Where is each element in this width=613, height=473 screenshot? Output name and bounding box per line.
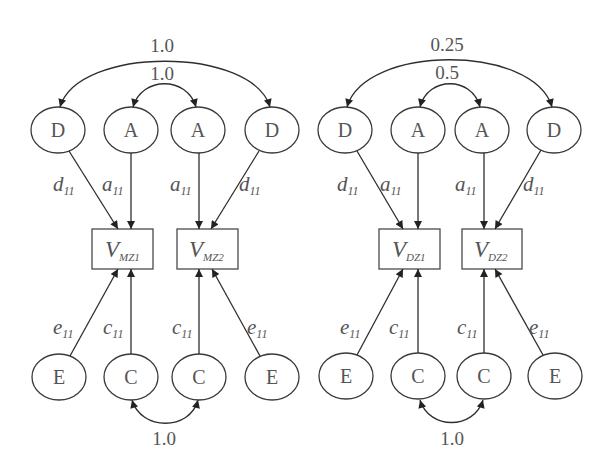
mz-observed-variable-twin2: VMZ2	[177, 229, 238, 269]
dz-twin-panel: 0.25 0.5 1.0 D A A D E C	[318, 34, 582, 449]
mz-latent-node-e1: E	[32, 354, 86, 400]
dz-latent-node-a2: A	[455, 107, 509, 153]
svg-text:A: A	[475, 119, 490, 141]
dz-coef-d1: d11	[337, 172, 359, 198]
dz-latent-node-d1: D	[318, 107, 372, 153]
mz-coef-e2: e11	[247, 315, 267, 341]
svg-text:C: C	[192, 366, 205, 388]
dz-additive-correlation-label: 0.5	[435, 62, 459, 83]
mz-coef-d1: d11	[53, 172, 75, 198]
mz-additive-correlation-label: 1.0	[150, 63, 174, 84]
mz-coef-a1: a11	[102, 172, 124, 198]
mz-coef-c2: c11	[172, 315, 192, 341]
dz-coef-a2: a11	[455, 172, 477, 198]
dz-coef-c2: c11	[457, 315, 477, 341]
svg-text:D: D	[547, 119, 561, 141]
svg-text:C: C	[124, 366, 137, 388]
dz-coef-d2: d11	[523, 172, 545, 198]
svg-text:C: C	[411, 365, 424, 387]
svg-text:A: A	[124, 119, 139, 141]
mz-latent-node-d1: D	[31, 107, 85, 153]
dz-latent-node-c2: C	[457, 353, 511, 399]
dz-latent-node-e1: E	[319, 353, 373, 399]
dz-coef-e1: e11	[340, 315, 360, 341]
svg-text:E: E	[266, 366, 278, 388]
mz-coef-d2: d11	[239, 172, 261, 198]
dz-latent-node-c1: C	[391, 353, 445, 399]
mz-coef-e1: e11	[53, 315, 73, 341]
svg-text:C: C	[477, 365, 490, 387]
mz-coef-a2: a11	[170, 172, 192, 198]
svg-text:D: D	[338, 119, 352, 141]
mz-latent-node-c1: C	[104, 354, 158, 400]
svg-text:E: E	[340, 365, 352, 387]
dz-additive-correlation-arc	[420, 84, 480, 107]
svg-text:A: A	[191, 119, 206, 141]
mz-additive-correlation-arc	[133, 84, 196, 107]
svg-text:D: D	[51, 119, 65, 141]
dz-latent-node-d2: D	[527, 107, 581, 153]
mz-twin-panel: 1.0 1.0 1.0 D A A D E C	[31, 35, 299, 449]
dz-path-e1	[357, 269, 403, 355]
mz-latent-node-d2: D	[245, 107, 299, 153]
mz-common-env-correlation-arc	[132, 400, 198, 423]
svg-text:E: E	[53, 366, 65, 388]
mz-path-e1	[70, 269, 118, 356]
mz-coef-c1: c11	[103, 315, 123, 341]
svg-text:A: A	[411, 119, 426, 141]
dz-coef-c1: c11	[389, 315, 409, 341]
dz-coef-e2: e11	[529, 315, 549, 341]
mz-latent-node-c2: C	[172, 354, 226, 400]
dz-coef-a1: a11	[380, 172, 402, 198]
mz-common-env-correlation-label: 1.0	[152, 428, 176, 449]
dz-common-env-correlation-label: 1.0	[440, 428, 464, 449]
dz-observed-variable-twin2: VDZ2	[462, 229, 522, 269]
mz-latent-node-a1: A	[104, 107, 158, 153]
dz-common-env-correlation-arc	[420, 400, 483, 423]
svg-text:E: E	[549, 365, 561, 387]
ace-twin-path-diagram: 1.0 1.0 1.0 D A A D E C	[0, 0, 613, 473]
dz-dominance-correlation-label: 0.25	[430, 34, 463, 55]
dz-latent-node-a1: A	[391, 107, 445, 153]
mz-latent-node-a2: A	[171, 107, 225, 153]
mz-latent-node-e2: E	[245, 354, 299, 400]
mz-dominance-correlation-label: 1.0	[150, 35, 174, 56]
dz-path-e2	[495, 269, 543, 355]
mz-observed-variable-twin1: VMZ1	[92, 229, 153, 269]
svg-text:D: D	[265, 119, 279, 141]
mz-path-e2	[212, 269, 260, 356]
dz-observed-variable-twin1: VDZ1	[379, 229, 440, 269]
dz-latent-node-e2: E	[528, 353, 582, 399]
